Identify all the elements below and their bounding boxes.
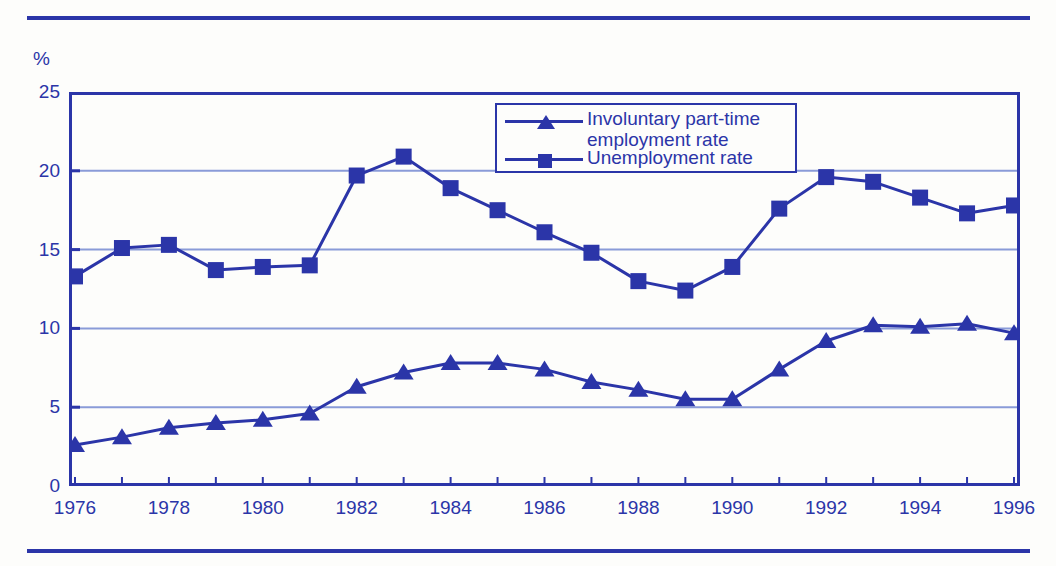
y-tick-label: 10	[16, 317, 60, 339]
legend-marker-square-icon	[505, 149, 583, 169]
y-tick-label: 5	[16, 396, 60, 418]
y-tick-label: 25	[16, 81, 60, 103]
x-tick-label: 1992	[805, 497, 847, 519]
legend-entry-unemployment	[505, 148, 583, 170]
x-axis: 1976197819801982198419861988199019921994…	[69, 497, 1020, 527]
y-tick-label: 20	[16, 160, 60, 182]
x-tick-label: 1984	[429, 497, 471, 519]
x-tick-label: 1996	[993, 497, 1035, 519]
y-tick-label: 15	[16, 239, 60, 261]
x-tick-label: 1986	[523, 497, 565, 519]
x-tick-label: 1994	[899, 497, 941, 519]
legend-entry-part-time	[505, 110, 583, 132]
y-axis: 0510152025	[10, 92, 60, 486]
legend-marker-triangle-icon	[505, 111, 583, 131]
x-tick-label: 1976	[54, 497, 96, 519]
x-tick-label: 1988	[617, 497, 659, 519]
chart-figure: % 0510152025 197619781980198219841986198…	[0, 0, 1056, 566]
top-divider-rule	[27, 16, 1030, 20]
legend-label-unemployment: Unemployment rate	[587, 147, 753, 168]
x-tick-label: 1990	[711, 497, 753, 519]
x-tick-label: 1980	[242, 497, 284, 519]
legend-label-part-time: Involuntary part-time employment rate	[587, 108, 760, 150]
y-axis-unit-label: %	[33, 48, 50, 70]
chart-legend: Involuntary part-time employment rate Un…	[495, 103, 797, 173]
x-tick-label: 1978	[148, 497, 190, 519]
bottom-divider-rule	[27, 549, 1030, 553]
x-tick-label: 1982	[336, 497, 378, 519]
y-tick-label: 0	[16, 475, 60, 497]
